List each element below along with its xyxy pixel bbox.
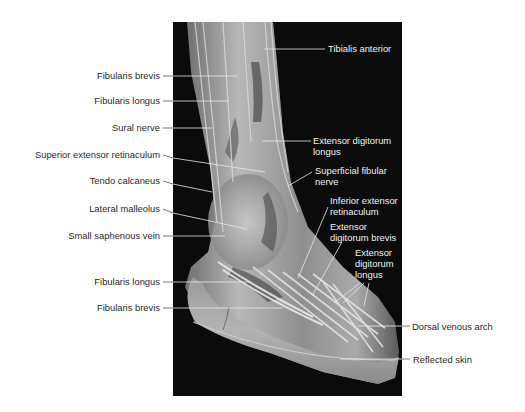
label-extensor-digitorum-brevis: Extensor digitorum brevis — [330, 221, 396, 243]
label-line: Superficial fibular — [315, 165, 387, 176]
label-line: Extensor digitorum — [313, 135, 391, 146]
label-superficial-fibular-nerve: Superficial fibular nerve — [315, 165, 387, 187]
label-line: retinaculum — [330, 206, 398, 217]
label-fibularis-brevis-upper: Fibularis brevis — [97, 70, 160, 81]
label-lateral-malleolus: Lateral malleolus — [89, 203, 160, 214]
label-sural-nerve: Sural nerve — [112, 122, 160, 133]
label-tibialis-anterior: Tibialis anterior — [328, 43, 391, 54]
label-fibularis-longus-lower: Fibularis longus — [94, 276, 160, 287]
label-extensor-digitorum-longus-upper: Extensor digitorum longus — [313, 135, 391, 157]
anatomy-figure: Fibularis brevis Fibularis longus Sural … — [0, 0, 525, 412]
label-small-saphenous-vein: Small saphenous vein — [68, 230, 160, 241]
label-line: digitorum — [355, 258, 394, 269]
label-inferior-extensor-retinaculum: Inferior extensor retinaculum — [330, 195, 398, 217]
label-reflected-skin: Reflected skin — [413, 354, 472, 365]
label-fibularis-brevis-lower: Fibularis brevis — [97, 302, 160, 313]
label-line: Inferior extensor — [330, 195, 398, 206]
label-extensor-digitorum-longus-lower: Extensor digitorum longus — [355, 247, 394, 280]
label-tendo-calcaneus: Tendo calcaneus — [90, 175, 160, 186]
label-line: Extensor — [355, 247, 394, 258]
leader-line — [163, 181, 173, 184]
leader-line — [163, 155, 173, 158]
label-line: longus — [355, 269, 394, 280]
label-line: nerve — [315, 176, 387, 187]
label-superior-extensor-retinaculum: Superior extensor retinaculum — [35, 149, 160, 160]
label-dorsal-venous-arch: Dorsal venous arch — [412, 321, 493, 332]
leader-line — [163, 209, 173, 213]
label-line: digitorum brevis — [330, 232, 396, 243]
label-line: longus — [313, 146, 391, 157]
label-fibularis-longus-upper: Fibularis longus — [94, 95, 160, 106]
label-line: Extensor — [330, 221, 396, 232]
